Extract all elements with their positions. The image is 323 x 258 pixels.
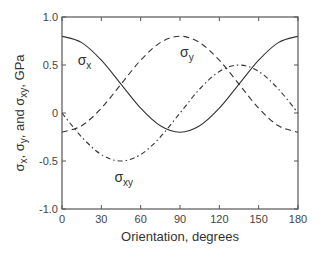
x-tick-label: 60 [135, 213, 147, 225]
x-tick-label: 120 [210, 213, 228, 225]
y-tick-label: 0.5 [43, 59, 58, 71]
x-tick-label: 0 [59, 213, 65, 225]
y-tick-label: -1.0 [39, 203, 58, 215]
y-tick-label: 1.0 [43, 11, 58, 23]
x-tick-label: 180 [289, 213, 307, 225]
x-tick-label: 90 [174, 213, 186, 225]
y-tick-label: -0.5 [39, 155, 58, 167]
x-tick-label: 150 [249, 213, 267, 225]
x-tick-label: 30 [95, 213, 107, 225]
y-axis-label: σx, σy, and σxy, GPa [12, 54, 29, 172]
axis-ticks: 0306090120150180-1.0-0.500.51.0 [39, 11, 307, 225]
x-axis-label: Orientation, degrees [121, 229, 239, 244]
chart: 0306090120150180-1.0-0.500.51.0 σxσyσxy … [0, 0, 323, 258]
curve-label: σy [180, 44, 194, 63]
curve-label: σxy [114, 169, 133, 188]
curve-label: σx [78, 52, 92, 71]
y-tick-label: 0 [52, 107, 58, 119]
